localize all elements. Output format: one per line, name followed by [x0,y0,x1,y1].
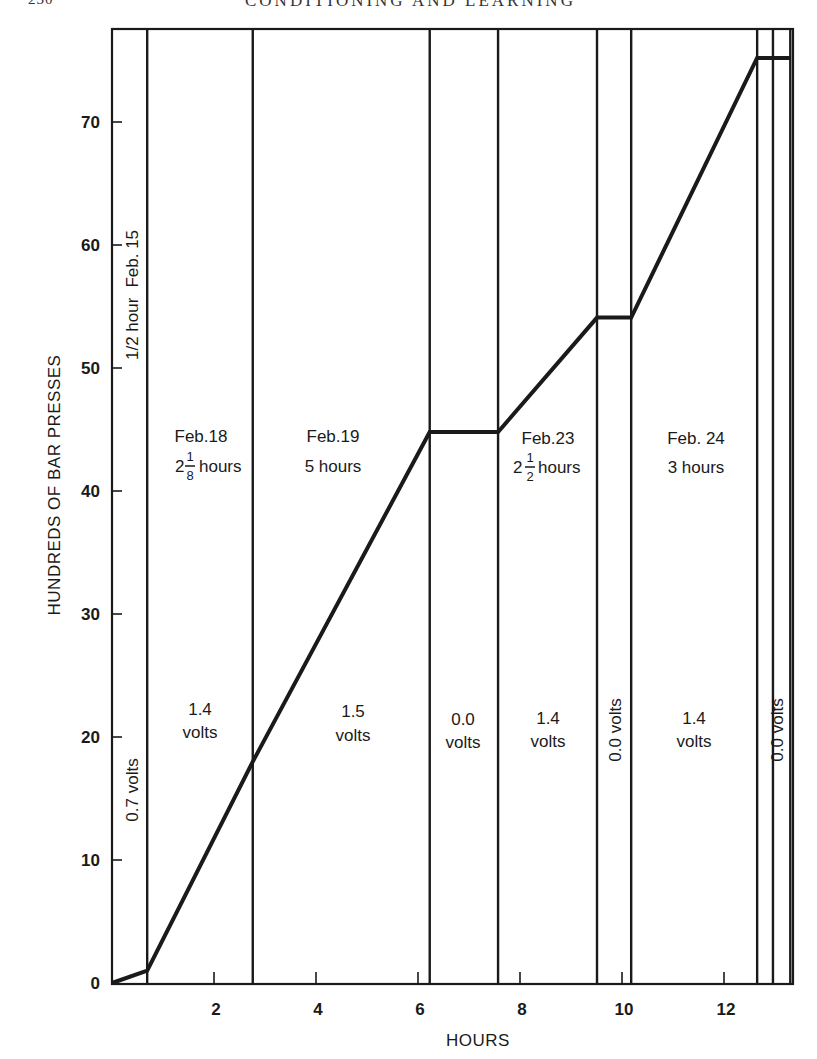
x-axis-title: HOURS [446,1031,510,1050]
session-feb19-voltage-value: 1.5 [341,702,365,721]
x-tick-label: 6 [415,1000,424,1019]
y-tick-label: 40 [81,482,100,501]
svg-text:hours: hours [199,457,242,476]
session-feb24-voltage-unit: volts [677,732,712,751]
session-gap1-voltage-unit: volts [446,733,481,752]
session-boundaries [147,29,790,984]
session-gap1-voltage-value: 0.0 [451,710,475,729]
svg-text:2: 2 [513,458,522,477]
session-feb18-voltage-unit: volts [183,723,218,742]
svg-text:hours: hours [538,458,581,477]
x-tick-label: 12 [717,1000,736,1019]
session-feb15-label: 1/2 hourFeb. 15 [123,230,142,360]
session-feb19-voltage-unit: volts [336,726,371,745]
session-feb23-voltage-unit: volts [531,732,566,751]
y-tick-label: 60 [81,236,100,255]
y-tick-label: 0 [91,974,100,993]
y-tick-label: 50 [81,359,100,378]
svg-text:1: 1 [186,449,193,464]
session-feb19-duration: 5 hours [305,457,362,476]
session-feb23-duration: 2 1 2 hours [513,450,581,484]
y-tick-label: 70 [81,113,100,132]
svg-text:8: 8 [186,468,193,483]
y-tick-label: 20 [81,728,100,747]
session-feb24-duration: 3 hours [668,458,725,477]
session-feb24-date: Feb. 24 [667,429,725,448]
y-axis-title: HUNDREDS OF BAR PRESSES [45,355,64,616]
y-tick-label: 30 [81,605,100,624]
x-axis: 24681012 [211,972,735,1019]
cumulative-response-chart: 010203040506070 24681012 HOURS HUNDREDS … [0,0,817,1059]
session-feb24-voltage-value: 1.4 [682,709,706,728]
svg-text:1: 1 [526,450,533,465]
session-feb23-date: Feb.23 [522,429,575,448]
svg-text:2: 2 [175,457,184,476]
x-tick-label: 4 [313,1000,323,1019]
session-feb15-voltage: 0.7 volts [123,758,142,821]
svg-text:2: 2 [526,469,533,484]
session-feb18-date: Feb.18 [175,427,228,446]
session-feb18-duration: 2 1 8 hours [175,449,242,483]
session-gap2-voltage: 0.0 volts [606,698,625,761]
session-feb23-voltage-value: 1.4 [536,709,560,728]
cumulative-curve [112,58,790,983]
x-tick-label: 8 [517,1000,526,1019]
x-tick-label: 2 [211,1000,220,1019]
y-axis: 010203040506070 [81,113,122,993]
session-feb18-voltage-value: 1.4 [188,700,212,719]
y-tick-label: 10 [81,851,100,870]
session-final-voltage: 0.0 volts [768,698,787,761]
x-tick-label: 10 [615,1000,634,1019]
session-feb19-date: Feb.19 [307,427,360,446]
